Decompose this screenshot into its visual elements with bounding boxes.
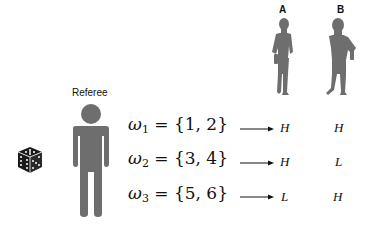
arrow-icon — [240, 126, 274, 132]
worker-woman-silhouette-icon — [268, 18, 300, 98]
omega-symbol: ω — [128, 114, 142, 134]
omega-subscript: 2 — [142, 157, 149, 170]
row-1-player-a-outcome: H — [280, 120, 289, 136]
arrow-icon — [240, 160, 274, 166]
omega-set: = {3, 4} — [154, 148, 228, 168]
arrow-icon — [240, 194, 274, 200]
row-3-player-b-outcome: H — [333, 189, 342, 205]
worker-man-silhouette-icon — [322, 18, 362, 98]
omega-set: = {5, 6} — [154, 183, 228, 203]
person-icon — [67, 104, 115, 218]
omega-3-equation: ω3 = {5, 6} — [128, 183, 228, 205]
row-3-player-a-outcome: L — [281, 189, 288, 205]
row-2-player-b-outcome: L — [335, 154, 342, 170]
player-b-label: B — [337, 4, 344, 15]
referee-label: Referee — [72, 87, 108, 98]
omega-subscript: 1 — [142, 123, 149, 136]
omega-subscript: 3 — [142, 192, 149, 205]
omega-symbol: ω — [128, 183, 142, 203]
omega-2-equation: ω2 = {3, 4} — [128, 148, 228, 170]
omega-1-equation: ω1 = {1, 2} — [128, 114, 228, 136]
row-2-player-a-outcome: H — [280, 154, 289, 170]
omega-set: = {1, 2} — [154, 114, 228, 134]
row-1-player-b-outcome: H — [334, 120, 343, 136]
player-a-label: A — [279, 4, 286, 15]
omega-symbol: ω — [128, 148, 142, 168]
dice-icon — [16, 146, 44, 174]
